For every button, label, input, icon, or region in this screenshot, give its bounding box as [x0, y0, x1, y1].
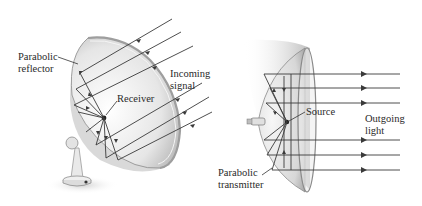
- label-outgoing-light-1: Outgoing: [365, 113, 405, 124]
- label-source: Source: [306, 106, 335, 117]
- label-parabolic-transmitter-1: Parabolic: [218, 167, 258, 178]
- label-parabolic-reflector-2: reflector: [18, 63, 54, 74]
- receiving-dish-group: Parabolic reflector Receiver Incoming si…: [18, 19, 212, 194]
- label-receiver: Receiver: [117, 93, 155, 104]
- label-outgoing-light-2: light: [365, 125, 384, 136]
- label-incoming-signal-2: signal: [170, 80, 195, 91]
- transmitter-group: Source Outgoing light Parabolic transmit…: [218, 40, 405, 192]
- label-parabolic-reflector-1: Parabolic: [18, 51, 58, 62]
- label-incoming-signal-1: Incoming: [170, 68, 211, 79]
- transmitter-leader-line: [262, 168, 272, 175]
- light-bulb-icon: [247, 118, 265, 125]
- parabolic-reflector-diagram: Parabolic reflector Receiver Incoming si…: [0, 0, 422, 206]
- label-parabolic-transmitter-2: transmitter: [218, 179, 264, 190]
